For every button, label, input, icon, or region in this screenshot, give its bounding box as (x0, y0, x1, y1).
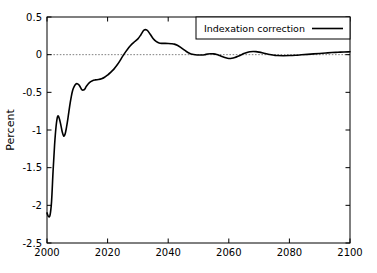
legend-entry-label: Indexation correction (204, 23, 305, 34)
y-tick-label: -2.5 (22, 238, 42, 249)
plot-area-background (47, 17, 350, 243)
x-tick-label: 2100 (337, 247, 362, 258)
y-tick-label: -1.5 (22, 162, 42, 173)
chart-canvas: 200020202040206020802100 0.50-0.5-1-1.5-… (0, 0, 377, 273)
chart-figure: 200020202040206020802100 0.50-0.5-1-1.5-… (0, 0, 377, 273)
x-tick-label: 2060 (216, 247, 241, 258)
y-tick-label: -0.5 (22, 87, 42, 98)
x-tick-label: 2020 (95, 247, 120, 258)
x-tick-label: 2040 (155, 247, 180, 258)
x-tick-label: 2080 (277, 247, 302, 258)
y-tick-label: 0.5 (26, 12, 42, 23)
y-axis-title: Percent (4, 109, 17, 151)
y-tick-label: 0 (36, 49, 42, 60)
y-tick-label: -2 (32, 200, 42, 211)
legend: Indexation correction (196, 17, 350, 39)
y-tick-label: -1 (32, 125, 42, 136)
x-tick-label: 2000 (34, 247, 59, 258)
